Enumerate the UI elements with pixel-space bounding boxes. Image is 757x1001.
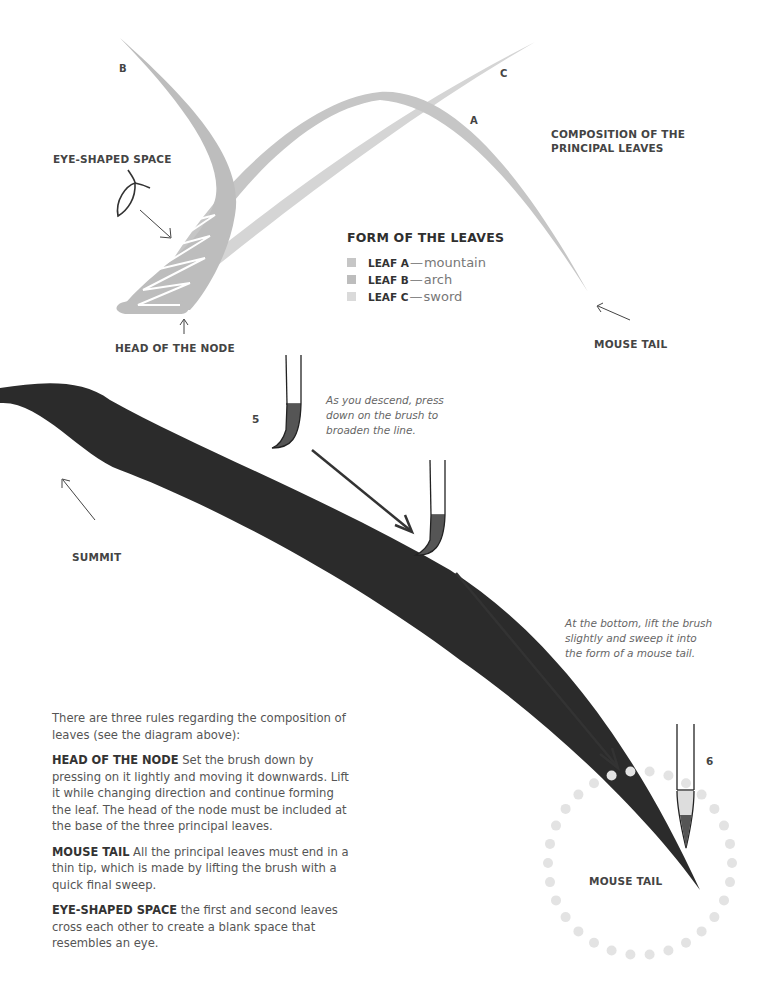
caption-line: the form of a mouse tail.	[565, 646, 712, 661]
legend-dash: —	[410, 255, 423, 270]
legend-name: arch	[424, 272, 452, 287]
leaf-c-label: C	[500, 68, 508, 79]
head-of-node-label: HEAD OF THE NODE	[115, 342, 235, 354]
legend-title: FORM OF THE LEAVES	[347, 230, 504, 245]
rule-mouse-tail: MOUSE TAIL All the principal leaves must…	[52, 844, 352, 894]
leaf-b-label: B	[119, 63, 127, 74]
rule-term: HEAD OF THE NODE	[52, 753, 178, 767]
intro-paragraph: There are three rules regarding the comp…	[52, 710, 352, 743]
step-5-number: 5	[252, 413, 259, 425]
eye-shaped-space-label: EYE-SHAPED SPACE	[53, 153, 172, 165]
rule-term: EYE-SHAPED SPACE	[52, 903, 177, 917]
legend-item-leaf-b: LEAF B — arch	[347, 271, 504, 288]
rule-eye-shaped-space: EYE-SHAPED SPACE the first and second le…	[52, 902, 352, 952]
rule-term: MOUSE TAIL	[52, 845, 129, 859]
legend-item-leaf-c: LEAF C — sword	[347, 288, 504, 305]
legend-key: LEAF A	[368, 257, 409, 269]
head-of-node-shape	[116, 300, 188, 314]
legend-name: sword	[424, 289, 463, 304]
rule-head-of-node: HEAD OF THE NODE Set the brush down by p…	[52, 752, 352, 835]
body-text: There are three rules regarding the comp…	[52, 710, 352, 961]
brush-step5-icon	[272, 355, 301, 448]
swatch-leaf-b-icon	[347, 275, 356, 284]
leaf-b-shape	[120, 38, 236, 310]
legend-name: mountain	[424, 255, 486, 270]
leaf-a-label: A	[470, 115, 478, 126]
legend: FORM OF THE LEAVES LEAF A — mountain LEA…	[347, 230, 504, 305]
legend-dash: —	[410, 272, 423, 287]
caption-line: down on the brush to	[326, 408, 444, 423]
legend-key: LEAF C	[368, 291, 409, 303]
legend-key: LEAF B	[368, 274, 409, 286]
legend-item-leaf-a: LEAF A — mountain	[347, 254, 504, 271]
composition-title-line1: COMPOSITION OF THE	[551, 127, 685, 141]
caption-line: At the bottom, lift the brush	[565, 616, 712, 631]
composition-title: COMPOSITION OF THE PRINCIPAL LEAVES	[551, 127, 685, 155]
summit-label: SUMMIT	[72, 551, 121, 563]
step-6-number: 6	[706, 755, 713, 767]
swatch-leaf-a-icon	[347, 258, 356, 267]
caption-line: As you descend, press	[326, 393, 444, 408]
mouse-tail-label-top: MOUSE TAIL	[594, 338, 667, 350]
swatch-leaf-c-icon	[347, 292, 356, 301]
caption-bottom: At the bottom, lift the brush slightly a…	[565, 616, 712, 661]
mouse-tail-label-bottom: MOUSE TAIL	[589, 875, 662, 887]
composition-title-line2: PRINCIPAL LEAVES	[551, 141, 685, 155]
eye-glyph-icon	[117, 170, 150, 216]
caption-line: slightly and sweep it into	[565, 631, 712, 646]
legend-dash: —	[410, 289, 423, 304]
caption-descend: As you descend, press down on the brush …	[326, 393, 444, 438]
caption-line: broaden the line.	[326, 423, 444, 438]
brush-mid-icon	[416, 460, 445, 555]
